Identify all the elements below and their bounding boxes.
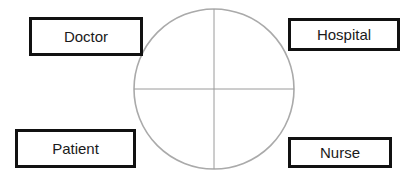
doctor-label-box: Doctor bbox=[29, 17, 143, 56]
hospital-label-box: Hospital bbox=[288, 18, 400, 51]
doctor-label: Doctor bbox=[64, 29, 108, 44]
nurse-label: Nurse bbox=[320, 145, 360, 160]
patient-label: Patient bbox=[52, 141, 99, 156]
nurse-label-box: Nurse bbox=[288, 137, 392, 168]
hospital-label: Hospital bbox=[317, 27, 371, 42]
patient-label-box: Patient bbox=[15, 129, 136, 168]
